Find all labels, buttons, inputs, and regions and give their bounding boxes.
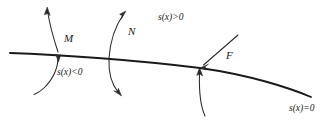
f-descending-curve — [199, 74, 205, 116]
label-point-m: M — [64, 33, 73, 44]
label-sign-positive: s(x)>0 — [158, 13, 183, 23]
m-curve-lower — [34, 55, 58, 95]
n-curve-lower — [109, 60, 118, 92]
main-zero-curve — [10, 53, 311, 97]
label-point-n: N — [128, 26, 135, 37]
m-curve-upper-arrowhead — [44, 7, 50, 16]
n-curve-downward-arrowhead — [114, 88, 122, 96]
figure-canvas: M N F s(x)>0 s(x)<0 s(x)=0 — [0, 0, 334, 129]
m-curve-upper — [48, 11, 59, 52]
label-sign-zero: s(x)=0 — [289, 104, 314, 114]
n-curve-upper — [109, 15, 123, 58]
label-sign-negative: s(x)<0 — [57, 68, 82, 78]
label-point-f: F — [226, 50, 233, 61]
